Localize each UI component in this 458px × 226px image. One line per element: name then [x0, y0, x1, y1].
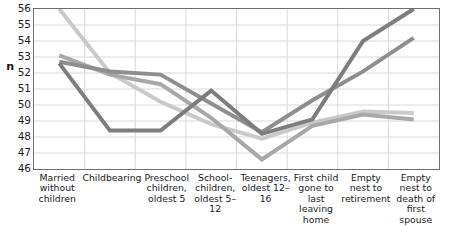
- y-tick-label: 49: [12, 115, 31, 125]
- x-tick-label: Empty nest to retirement: [340, 173, 391, 226]
- x-tick-label: Teenagers, oldest 12–16: [239, 173, 291, 226]
- y-tick-label: 46: [12, 163, 31, 173]
- x-tick-label: Married without children: [33, 173, 81, 226]
- y-tick-label: 50: [12, 99, 31, 109]
- y-tick-label: 52: [12, 67, 31, 77]
- y-tick-label: 51: [12, 83, 31, 93]
- line-chart-svg: [34, 9, 439, 169]
- x-tick-label: Empty nest to death of first spouse: [392, 173, 440, 226]
- x-axis-labels: Married without childrenChildbearingPres…: [33, 173, 440, 226]
- y-tick-label: 55: [12, 19, 31, 29]
- y-tick-label: 47: [12, 147, 31, 157]
- y-tick-label: 53: [12, 51, 31, 61]
- chart-root: n 5655545352515049484746 Married without…: [0, 0, 458, 226]
- x-tick-label: First child gone to last leaving home: [292, 173, 340, 226]
- y-axis-ticks: 5655545352515049484746: [12, 0, 31, 226]
- plot-area: [33, 8, 440, 170]
- x-tick-label: Childbearing: [81, 173, 142, 226]
- y-tick-label: 56: [12, 3, 31, 13]
- y-tick-label: 48: [12, 131, 31, 141]
- x-tick-label: School-children, oldest 5–12: [191, 173, 239, 226]
- y-tick-label: 54: [12, 35, 31, 45]
- x-tick-label: Preschool children, oldest 5: [142, 173, 190, 226]
